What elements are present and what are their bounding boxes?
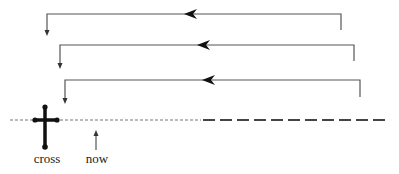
down-arrowhead-icon — [58, 63, 63, 69]
time-loop-diagram — [0, 0, 399, 174]
down-arrowhead-icon — [63, 98, 68, 104]
loop-arrow-3 — [63, 75, 361, 104]
now-label: now — [86, 151, 108, 167]
cross-label: cross — [34, 151, 61, 167]
loop-arrow-1 — [45, 9, 342, 36]
loop-arrow-2 — [58, 40, 355, 69]
now-up-arrow-icon — [94, 130, 99, 150]
cross-icon — [32, 104, 59, 149]
down-arrowhead-icon — [45, 30, 50, 36]
